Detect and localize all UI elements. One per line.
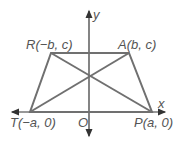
vertex-label-R: R(−b, c) bbox=[26, 37, 73, 52]
coordinate-diagram: y x O R(−b, c) A(b, c) P(a, 0) T(−a, 0) bbox=[0, 0, 173, 145]
vertex-label-P: P(a, 0) bbox=[134, 115, 173, 130]
vertex-label-A: A(b, c) bbox=[117, 37, 156, 52]
diagonal-TA bbox=[30, 53, 129, 112]
origin-label: O bbox=[78, 115, 88, 130]
y-axis-label: y bbox=[92, 7, 101, 22]
vertex-label-T: T(−a, 0) bbox=[10, 115, 56, 130]
x-axis-label: x bbox=[157, 96, 165, 111]
diagonal-RP bbox=[51, 53, 152, 112]
trapezoid-RAPT bbox=[30, 53, 152, 112]
